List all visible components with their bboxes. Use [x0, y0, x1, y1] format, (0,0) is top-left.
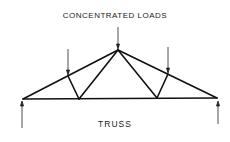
- right-load-arrowhead: [167, 68, 170, 73]
- truss-members: [23, 50, 217, 99]
- right-diagonal-web: [118, 50, 157, 98]
- left-load-arrowhead: [67, 70, 70, 75]
- left-top-chord: [23, 50, 118, 99]
- apex-load-arrowhead: [117, 44, 120, 49]
- truss-caption: TRUSS: [0, 119, 230, 129]
- right-reaction-arrowhead: [217, 101, 220, 106]
- right-vertical-web: [157, 74, 168, 98]
- left-diagonal-web: [79, 50, 118, 99]
- left-vertical-web: [68, 76, 79, 99]
- concentrated-loads-label: CONCENTRATED LOADS: [0, 11, 230, 20]
- bottom-chord: [23, 98, 217, 99]
- left-reaction-arrowhead: [21, 101, 24, 106]
